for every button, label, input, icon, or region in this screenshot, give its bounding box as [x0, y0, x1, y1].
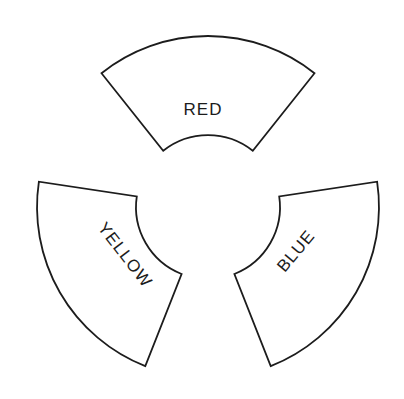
sector-red-label: RED — [184, 100, 223, 119]
sector-red-shape — [102, 36, 315, 151]
sector-yellow-shape — [37, 182, 182, 366]
trefoil-diagram: REDYELLOWBLUE — [0, 0, 404, 399]
sector-blue-shape — [234, 182, 379, 366]
figure-canvas: REDYELLOWBLUE — [0, 0, 404, 399]
